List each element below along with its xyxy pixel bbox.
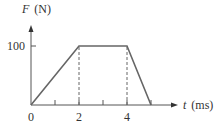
x-tick-label: 2 — [76, 110, 82, 124]
x-axis-arrow-icon — [171, 103, 178, 108]
y-axis-label: F (N) — [21, 2, 51, 16]
x-axis-label: t (ms) — [183, 98, 213, 112]
y-tick-labels: 100 — [7, 39, 25, 53]
y-tick-label: 100 — [7, 39, 25, 53]
x-tick-label: 4 — [124, 110, 130, 124]
force-curve — [31, 46, 151, 105]
y-axis-arrow-icon — [29, 25, 34, 32]
x-ticks — [55, 100, 151, 105]
force-time-chart: F (N) t (ms) 024 100 — [0, 0, 221, 125]
x-tick-labels: 024 — [28, 110, 130, 124]
x-tick-label: 0 — [28, 110, 34, 124]
dashed-guides — [79, 46, 127, 105]
